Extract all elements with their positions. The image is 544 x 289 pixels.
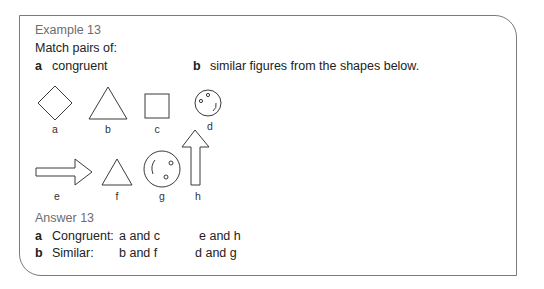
figure-e-arrow-right bbox=[36, 159, 92, 185]
figure-label-a: a bbox=[52, 123, 58, 135]
figure-label-e: e bbox=[54, 190, 60, 202]
answer-a-pair1: a and c bbox=[119, 229, 160, 243]
figure-label-h: h bbox=[195, 190, 201, 202]
answer-b-name: Similar: bbox=[52, 246, 94, 260]
answer-a-name: Congruent: bbox=[52, 229, 114, 243]
figure-g-face bbox=[144, 151, 180, 187]
answer-b-pair2: d and g bbox=[195, 246, 237, 260]
answer-a-pair2: e and h bbox=[199, 229, 241, 243]
figure-label-b: b bbox=[105, 123, 111, 135]
figure-label-c: c bbox=[154, 123, 159, 135]
figure-h-arrow-up bbox=[182, 130, 209, 185]
answer-a-label: a bbox=[35, 229, 42, 243]
figure-label-f: f bbox=[116, 190, 119, 202]
figure-label-g: g bbox=[159, 190, 165, 202]
figure-a-diamond bbox=[38, 86, 72, 120]
figure-d-face bbox=[195, 90, 221, 116]
answer-title: Answer 13 bbox=[35, 211, 94, 225]
answer-b-pair1: b and f bbox=[119, 246, 157, 260]
answer-b-label: b bbox=[35, 246, 43, 260]
figure-label-d: d bbox=[207, 120, 213, 132]
figure-c-square bbox=[145, 94, 169, 118]
figure-f-triangle bbox=[102, 159, 132, 185]
figure-b-triangle bbox=[89, 87, 127, 119]
